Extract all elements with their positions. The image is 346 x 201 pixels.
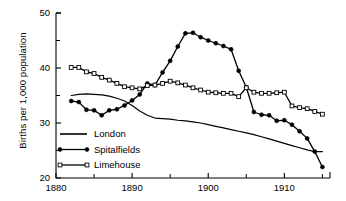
series-limehouse	[69, 66, 324, 117]
data-point	[183, 83, 187, 87]
x-tick-label: 1880	[45, 182, 66, 193]
legend-label: Spitalfields	[94, 144, 140, 155]
data-point	[290, 123, 294, 127]
data-point	[275, 119, 279, 123]
data-point	[153, 83, 157, 87]
data-point	[275, 91, 279, 95]
data-point	[69, 66, 73, 70]
data-point	[84, 108, 88, 112]
data-point	[92, 72, 96, 76]
data-point	[77, 100, 81, 104]
legend-marker	[85, 163, 89, 167]
data-point	[123, 103, 127, 107]
data-point	[130, 86, 134, 90]
legend-label: Limehouse	[94, 159, 140, 170]
legend-item-limehouse: Limehouse	[58, 159, 140, 170]
x-tick-label: 1900	[198, 182, 219, 193]
data-point	[229, 91, 233, 95]
data-point	[115, 82, 119, 86]
data-point	[298, 129, 302, 133]
data-point	[214, 91, 218, 95]
legend-marker	[58, 148, 62, 152]
x-tick-label: 1910	[274, 182, 295, 193]
data-point	[183, 31, 187, 35]
data-point	[206, 90, 210, 94]
data-point	[298, 106, 302, 110]
y-tick-label: 30	[39, 117, 50, 128]
data-point	[161, 82, 165, 86]
data-point	[168, 59, 172, 63]
legend-item-london: London	[60, 128, 126, 139]
chart-container: Births per 1,000 population 203040501880…	[0, 0, 346, 201]
data-point	[69, 99, 73, 103]
data-point	[138, 92, 142, 96]
data-point	[107, 108, 111, 112]
legend-label: London	[94, 128, 126, 139]
data-point	[130, 98, 134, 102]
data-point	[176, 81, 180, 85]
data-point	[260, 91, 264, 95]
data-point	[85, 70, 89, 74]
data-point	[138, 87, 142, 91]
data-point	[191, 86, 195, 90]
data-point	[100, 75, 104, 79]
data-point	[313, 110, 317, 114]
y-tick-label: 50	[39, 7, 50, 18]
data-point	[290, 104, 294, 108]
legend-marker	[85, 148, 89, 152]
legend-layer: LondonSpitalfieldsLimehouse	[58, 128, 140, 170]
data-point	[252, 90, 256, 94]
x-tick-label: 1890	[122, 182, 143, 193]
data-point	[229, 47, 233, 51]
data-point	[206, 39, 210, 43]
data-point	[305, 107, 309, 111]
data-point	[252, 110, 256, 114]
data-point	[320, 112, 324, 116]
data-point	[320, 165, 324, 169]
data-point	[145, 84, 149, 88]
data-point	[282, 118, 286, 122]
legend-marker	[58, 163, 62, 167]
legend-item-spitalfields: Spitalfields	[58, 144, 140, 155]
data-point	[123, 85, 127, 89]
data-point	[199, 88, 203, 92]
data-point	[115, 107, 119, 111]
data-point	[222, 91, 226, 95]
data-point	[221, 44, 225, 48]
data-point	[214, 41, 218, 45]
data-point	[199, 35, 203, 39]
data-point	[77, 66, 81, 70]
data-point	[313, 150, 317, 154]
data-point	[161, 70, 165, 74]
data-point	[267, 91, 271, 95]
data-point	[176, 45, 180, 49]
data-point	[237, 69, 241, 73]
data-point	[168, 79, 172, 83]
data-point	[282, 90, 286, 94]
y-tick-label: 40	[39, 62, 50, 73]
data-point	[100, 113, 104, 117]
data-point	[237, 95, 241, 99]
data-point	[191, 31, 195, 35]
data-point	[305, 136, 309, 140]
chart-plot-area: 203040501880189019001910 LondonSpitalfie…	[0, 0, 346, 201]
data-point	[267, 113, 271, 117]
data-point	[244, 86, 248, 90]
data-point	[92, 108, 96, 112]
data-point	[260, 113, 264, 117]
data-point	[107, 78, 111, 82]
